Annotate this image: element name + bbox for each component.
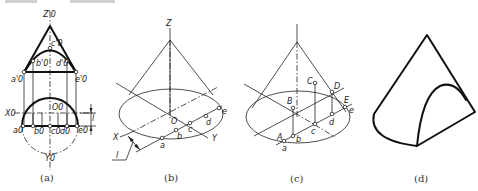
figure-canvas: Z'0 c'0 b'0 d'0 a'0 e'0 O0 X0 a0 b0 c0 d… bbox=[0, 0, 478, 191]
label-b0-front: b'0 bbox=[36, 59, 48, 68]
label-a-b: a bbox=[160, 141, 165, 150]
label-dimension-l-a: l bbox=[92, 114, 95, 123]
label-A-c: A bbox=[276, 133, 282, 142]
label-d0-top: d0 bbox=[60, 127, 70, 136]
label-E-c: E bbox=[344, 96, 350, 105]
caption-d: (d) bbox=[414, 173, 428, 184]
panel-c-axonometric-with-points: A B C D E a b c d e (c) bbox=[244, 24, 354, 184]
label-b-b: b bbox=[177, 132, 182, 141]
label-c-c: c bbox=[311, 127, 316, 136]
label-C-c: C bbox=[307, 77, 313, 86]
label-e0-front: e'0 bbox=[75, 75, 87, 84]
label-B-c: B bbox=[287, 97, 293, 106]
label-c-b: c bbox=[188, 125, 193, 134]
label-a0-front: a'0 bbox=[11, 75, 23, 84]
label-D-c: D bbox=[334, 82, 340, 91]
label-e0-top: e0 bbox=[78, 126, 88, 135]
label-y-b: Y bbox=[212, 134, 218, 143]
label-z0: Z'0 bbox=[42, 10, 56, 19]
caption-b: (b) bbox=[164, 172, 178, 183]
label-e-c: e bbox=[349, 106, 354, 115]
label-x-b: X bbox=[112, 133, 119, 142]
label-b0-top: b0 bbox=[34, 127, 44, 136]
panel-b-axonometric-cone: Z O X Y a b c d e l (b) bbox=[112, 19, 227, 183]
label-d0-front: d'0 bbox=[56, 59, 68, 68]
label-a-c: a bbox=[282, 144, 287, 153]
caption-c: (c) bbox=[290, 173, 304, 184]
label-o0: O0 bbox=[52, 103, 63, 112]
label-dimension-l-b: l bbox=[116, 151, 119, 160]
panel-d-cut-cone-solid: (d) bbox=[373, 35, 475, 184]
panel-a-orthographic-views: Z'0 c'0 b'0 d'0 a'0 e'0 O0 X0 a0 b0 c0 d… bbox=[4, 10, 96, 183]
label-e-b: e bbox=[222, 107, 227, 116]
label-b-c: b bbox=[296, 135, 301, 144]
label-c0-front: c'0 bbox=[51, 39, 63, 48]
label-x0: X0 bbox=[4, 109, 16, 118]
label-origin-b: O bbox=[171, 117, 177, 126]
label-a0-top: a0 bbox=[13, 126, 23, 135]
caption-a: (a) bbox=[40, 172, 54, 183]
label-z-b: Z bbox=[165, 19, 172, 28]
cut-off-header-text bbox=[5, 0, 115, 3]
label-d-b: d bbox=[206, 118, 212, 127]
label-d-c: d bbox=[329, 118, 335, 127]
label-y0: Y0 bbox=[45, 154, 55, 163]
